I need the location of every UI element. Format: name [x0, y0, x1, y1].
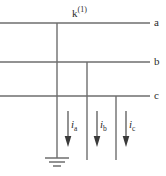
phase-label-b: b: [154, 56, 160, 67]
fault-superscript-text: (1): [78, 5, 87, 14]
phase-label-c: c: [154, 90, 159, 101]
current-label-ib: ib: [100, 119, 107, 130]
circuit-diagram-canvas: k(1) a b c ia ib ic: [0, 0, 166, 176]
circuit-diagram-svg: [0, 0, 166, 176]
phase-label-a: a: [154, 17, 159, 28]
ground-icon: [45, 158, 69, 166]
current-label-ia: ia: [71, 119, 77, 130]
current-subscript-ib: b: [103, 124, 107, 133]
current-label-ic: ic: [129, 119, 135, 130]
fault-designation-label: k(1): [72, 8, 87, 19]
current-subscript-ia: a: [74, 124, 77, 133]
current-subscript-ic: c: [132, 124, 135, 133]
